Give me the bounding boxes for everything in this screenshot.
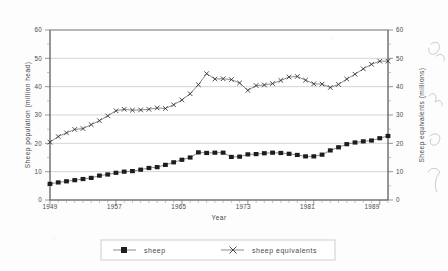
- left-axis-ticks: [45, 30, 50, 200]
- chart-figure: 0 10 20 30 40 50 60 0 10 20 30 40 50 60 …: [0, 0, 448, 271]
- left-tick-label: 10: [34, 168, 42, 175]
- filled-square-marker-icon: [121, 247, 127, 253]
- right-tick-label: 0: [396, 196, 400, 203]
- filled-square-marker: [180, 158, 185, 162]
- filled-square-marker: [361, 139, 366, 143]
- left-axis-title: Sheep population (million head): [24, 62, 32, 169]
- chart-legend: sheep sheep equivalents: [101, 240, 335, 260]
- x-axis-ticks: [50, 200, 388, 205]
- legend-label-sheep: sheep: [144, 247, 166, 255]
- x-tick-label: 1973: [236, 203, 251, 210]
- filled-square-marker: [64, 179, 69, 183]
- filled-square-marker: [328, 148, 333, 152]
- filled-square-marker: [155, 165, 160, 169]
- filled-square-marker: [295, 153, 300, 157]
- filled-square-marker: [196, 150, 201, 154]
- left-tick-label: 20: [34, 140, 42, 147]
- x-tick-label: 1957: [107, 203, 122, 210]
- filled-square-marker: [344, 142, 349, 146]
- x-tick-label: 1981: [300, 203, 315, 210]
- filled-square-marker: [278, 151, 283, 155]
- filled-square-marker: [72, 178, 77, 182]
- filled-square-marker: [262, 151, 267, 155]
- filled-square-marker: [89, 176, 94, 180]
- left-tick-label: 40: [34, 83, 42, 90]
- filled-square-marker: [188, 155, 193, 159]
- filled-square-marker: [138, 168, 143, 172]
- filled-square-marker: [171, 160, 176, 164]
- filled-square-marker: [56, 180, 61, 184]
- right-tick-label: 10: [396, 168, 404, 175]
- filled-square-marker: [48, 182, 53, 186]
- filled-square-marker: [221, 151, 226, 155]
- right-axis-ticks: [388, 30, 393, 200]
- filled-square-marker: [122, 170, 127, 174]
- right-tick-label: 30: [396, 111, 404, 118]
- filled-square-marker: [320, 153, 325, 157]
- left-tick-labels: 0 10 20 30 40 50 60: [34, 26, 42, 203]
- left-tick-label: 60: [34, 26, 42, 33]
- filled-square-marker: [114, 171, 119, 175]
- sheep-population-chart: 0 10 20 30 40 50 60 0 10 20 30 40 50 60 …: [0, 0, 448, 271]
- filled-square-marker: [303, 154, 308, 158]
- filled-square-marker: [369, 138, 374, 142]
- filled-square-marker: [130, 169, 135, 173]
- x-tick-label: 1949: [42, 203, 57, 210]
- filled-square-marker: [270, 151, 275, 155]
- filled-square-marker: [353, 140, 358, 144]
- right-tick-label: 50: [396, 55, 404, 62]
- filled-square-marker: [81, 177, 86, 181]
- filled-square-marker: [245, 152, 250, 156]
- scan-margin-marks: [428, 42, 444, 192]
- filled-square-marker: [377, 136, 382, 140]
- filled-square-marker: [237, 155, 242, 159]
- filled-square-marker: [229, 155, 234, 159]
- filled-square-marker: [97, 174, 102, 178]
- x-tick-label: 1965: [171, 203, 186, 210]
- left-tick-label: 50: [34, 55, 42, 62]
- filled-square-marker: [212, 151, 217, 155]
- x-axis-title: Year: [211, 214, 226, 221]
- filled-square-marker: [204, 151, 209, 155]
- filled-square-marker: [147, 166, 152, 170]
- filled-square-marker: [287, 152, 292, 156]
- filled-square-marker: [163, 163, 168, 167]
- right-tick-label: 40: [396, 83, 404, 90]
- left-tick-label: 30: [34, 111, 42, 118]
- filled-square-marker: [386, 134, 391, 138]
- filled-square-marker: [336, 145, 341, 149]
- right-axis-title: Sheep equivalents (millions): [418, 67, 426, 162]
- right-tick-label: 20: [396, 140, 404, 147]
- filled-square-marker: [105, 172, 110, 176]
- filled-square-marker: [254, 152, 259, 156]
- right-tick-labels: 0 10 20 30 40 50 60: [396, 26, 404, 203]
- x-tick-labels: 1949 1957 1965 1973 1981 1989: [42, 203, 379, 210]
- x-tick-label: 1989: [364, 203, 379, 210]
- filled-square-marker: [311, 154, 316, 158]
- legend-label-sheep-equivalents: sheep equivalents: [252, 247, 317, 255]
- right-tick-label: 60: [396, 26, 404, 33]
